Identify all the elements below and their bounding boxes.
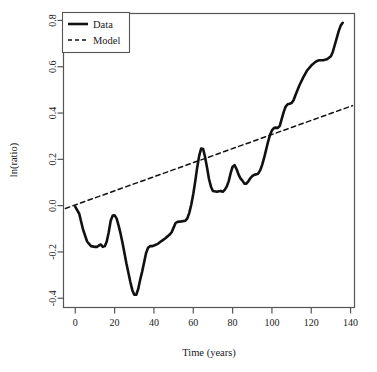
y-tick-label: -0.4: [47, 290, 58, 306]
x-tick-label: 0: [73, 317, 78, 328]
x-tick-label: 120: [304, 317, 319, 328]
y-tick-label: 0.8: [47, 14, 58, 27]
chart-legend: Data Model: [63, 13, 130, 53]
y-tick-label: -0.2: [47, 244, 58, 260]
y-tick-label: 0.6: [47, 60, 58, 73]
chart-figure: -0.4-0.20.00.20.40.60.8 0204060801001201…: [0, 0, 377, 372]
x-tick-label: 40: [149, 317, 159, 328]
x-tick-label: 100: [264, 317, 279, 328]
x-tick-label: 20: [110, 317, 120, 328]
legend-label-data: Data: [93, 19, 113, 30]
legend-label-model: Model: [93, 35, 120, 46]
x-tick-label: 60: [188, 317, 198, 328]
line-chart: -0.4-0.20.00.20.40.60.8 0204060801001201…: [0, 0, 377, 372]
x-tick-label: 80: [228, 317, 238, 328]
y-tick-label: 0.0: [47, 199, 58, 212]
x-tick-label: 140: [343, 317, 358, 328]
y-tick-label: 0.2: [47, 153, 58, 166]
x-axis-title: Time (years): [182, 347, 236, 359]
y-axis-title: ln(ratio): [8, 142, 20, 177]
y-tick-label: 0.4: [47, 107, 58, 120]
